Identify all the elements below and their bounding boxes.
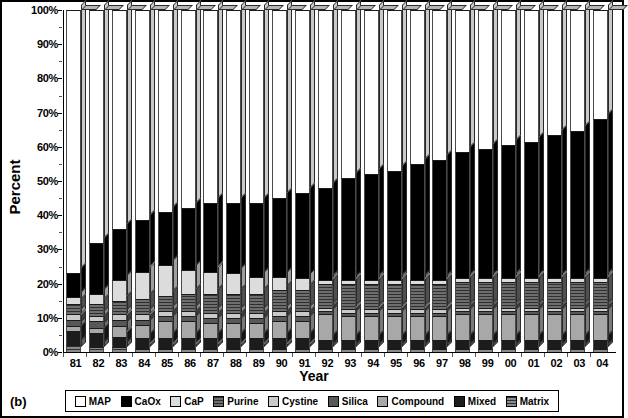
bar-segment-mixed[interactable]: [181, 338, 196, 348]
bar-segment-cap[interactable]: [501, 278, 516, 281]
bar-segment-mixed[interactable]: [547, 340, 562, 349]
bar-column[interactable]: [341, 10, 356, 352]
bar-column[interactable]: [593, 10, 608, 352]
bar-segment-compound[interactable]: [203, 323, 218, 338]
bar-segment-purine[interactable]: [593, 282, 608, 308]
legend-item-cap[interactable]: CaP: [170, 396, 203, 407]
bar-segment-caox[interactable]: [66, 273, 81, 297]
bar-column[interactable]: [181, 10, 196, 352]
bar-segment-cystine[interactable]: [203, 313, 218, 318]
bar-segment-silica[interactable]: [226, 318, 241, 323]
bar-segment-compound[interactable]: [226, 323, 241, 338]
bar-segment-cystine[interactable]: [364, 309, 379, 312]
bar-segment-cap[interactable]: [593, 278, 608, 281]
bar-segment-purine[interactable]: [89, 304, 104, 316]
bar-segment-caox[interactable]: [135, 220, 150, 271]
bar-segment-matrix[interactable]: [432, 349, 447, 352]
bar-segment-map[interactable]: [501, 10, 516, 145]
bar-segment-silica[interactable]: [112, 320, 127, 327]
bar-segment-silica[interactable]: [203, 318, 218, 323]
bar-segment-mixed[interactable]: [112, 337, 127, 347]
bar-segment-caox[interactable]: [181, 208, 196, 270]
bar-column[interactable]: [432, 10, 447, 352]
bar-segment-matrix[interactable]: [89, 347, 104, 352]
bar-segment-mixed[interactable]: [318, 340, 333, 349]
bar-segment-compound[interactable]: [249, 323, 264, 338]
bar-segment-map[interactable]: [455, 10, 470, 152]
bar-segment-cap[interactable]: [410, 280, 425, 283]
bar-segment-silica[interactable]: [295, 316, 310, 321]
bar-segment-silica[interactable]: [455, 311, 470, 314]
bar-segment-map[interactable]: [112, 10, 127, 229]
bar-segment-purine[interactable]: [341, 284, 356, 310]
bar-segment-silica[interactable]: [341, 313, 356, 316]
bar-segment-cystine[interactable]: [135, 314, 150, 319]
bar-segment-cap[interactable]: [432, 280, 447, 283]
bar-segment-cap[interactable]: [364, 280, 379, 283]
bar-segment-mixed[interactable]: [455, 340, 470, 349]
bar-segment-caox[interactable]: [272, 198, 287, 277]
bar-segment-matrix[interactable]: [135, 349, 150, 352]
bar-segment-silica[interactable]: [158, 316, 173, 321]
bar-segment-purine[interactable]: [249, 294, 264, 313]
bar-segment-map[interactable]: [181, 10, 196, 208]
bar-segment-mixed[interactable]: [295, 338, 310, 348]
bar-segment-purine[interactable]: [226, 294, 241, 313]
bar-segment-map[interactable]: [295, 10, 310, 193]
bar-column[interactable]: [226, 10, 241, 352]
bar-segment-cap[interactable]: [478, 278, 493, 281]
bar-segment-cap[interactable]: [135, 272, 150, 299]
bar-segment-caox[interactable]: [547, 135, 562, 279]
bar-segment-map[interactable]: [570, 10, 585, 131]
bar-segment-mixed[interactable]: [272, 338, 287, 348]
bar-segment-silica[interactable]: [478, 311, 493, 314]
bar-segment-caox[interactable]: [364, 174, 379, 280]
bar-segment-matrix[interactable]: [318, 349, 333, 352]
bar-segment-purine[interactable]: [66, 304, 81, 314]
bar-column[interactable]: [272, 10, 287, 352]
bar-segment-cap[interactable]: [524, 278, 539, 281]
bar-segment-compound[interactable]: [272, 321, 287, 338]
bar-column[interactable]: [318, 10, 333, 352]
bar-segment-mixed[interactable]: [364, 340, 379, 349]
bar-segment-cap[interactable]: [203, 272, 218, 294]
bar-segment-cap[interactable]: [455, 278, 470, 281]
bar-segment-purine[interactable]: [501, 282, 516, 308]
bar-column[interactable]: [501, 10, 516, 352]
bar-segment-purine[interactable]: [478, 282, 493, 308]
bar-segment-mixed[interactable]: [387, 340, 402, 349]
bar-segment-compound[interactable]: [478, 314, 493, 340]
bar-segment-matrix[interactable]: [524, 349, 539, 352]
bar-column[interactable]: [112, 10, 127, 352]
bar-segment-silica[interactable]: [387, 313, 402, 316]
bar-segment-map[interactable]: [364, 10, 379, 174]
bar-segment-caox[interactable]: [432, 160, 447, 280]
bar-segment-matrix[interactable]: [341, 349, 356, 352]
bar-segment-purine[interactable]: [547, 282, 562, 308]
bar-segment-caox[interactable]: [341, 178, 356, 281]
bar-segment-caox[interactable]: [387, 171, 402, 280]
bar-segment-cystine[interactable]: [341, 309, 356, 312]
bar-segment-mixed[interactable]: [66, 331, 81, 345]
bar-column[interactable]: [158, 10, 173, 352]
bar-segment-matrix[interactable]: [478, 349, 493, 352]
bar-segment-cap[interactable]: [181, 270, 196, 294]
bar-segment-compound[interactable]: [410, 316, 425, 340]
bar-segment-map[interactable]: [432, 10, 447, 160]
bar-segment-cystine[interactable]: [593, 308, 608, 311]
bar-segment-caox[interactable]: [89, 243, 104, 294]
bar-segment-compound[interactable]: [455, 314, 470, 340]
bar-segment-caox[interactable]: [478, 149, 493, 279]
bar-segment-cystine[interactable]: [272, 311, 287, 316]
bar-segment-compound[interactable]: [318, 314, 333, 340]
bar-segment-cystine[interactable]: [547, 308, 562, 311]
bar-segment-matrix[interactable]: [501, 349, 516, 352]
bar-segment-cystine[interactable]: [66, 314, 81, 319]
bar-segment-purine[interactable]: [364, 284, 379, 310]
bar-segment-matrix[interactable]: [410, 349, 425, 352]
bar-segment-compound[interactable]: [341, 316, 356, 340]
bar-segment-matrix[interactable]: [364, 349, 379, 352]
bar-segment-purine[interactable]: [570, 282, 585, 308]
bar-segment-mixed[interactable]: [478, 340, 493, 349]
bar-segment-silica[interactable]: [547, 311, 562, 314]
